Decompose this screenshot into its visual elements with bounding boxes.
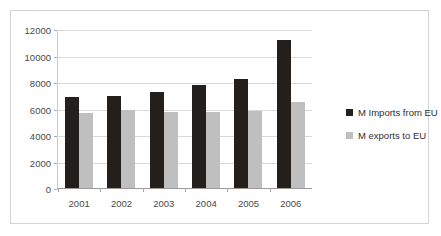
bar-exports-2003[interactable]	[164, 112, 178, 188]
legend-label: M exports to EU	[358, 130, 426, 141]
y-tick-mark	[54, 57, 57, 58]
bar-imports-2005[interactable]	[234, 79, 248, 188]
bar-group: 2004	[185, 30, 227, 188]
y-tick-label: 10000	[25, 51, 51, 62]
y-tick-label: 12000	[25, 25, 51, 36]
chart-container: 120001000080006000400020000 200120022003…	[10, 10, 429, 224]
x-tick-label: 2002	[111, 198, 132, 209]
y-tick-mark	[54, 30, 57, 31]
bar-group: 2006	[270, 30, 312, 188]
y-tick-mark	[54, 110, 57, 111]
chart-legend: M Imports from EUM exports to EU	[346, 107, 438, 153]
legend-swatch-icon	[346, 132, 353, 139]
y-tick-label: 8000	[30, 78, 51, 89]
y-tick-mark	[54, 83, 57, 84]
y-tick-label: 6000	[30, 104, 51, 115]
bar-imports-2002[interactable]	[107, 96, 121, 188]
legend-label: M Imports from EU	[358, 107, 438, 118]
bar-imports-2006[interactable]	[277, 40, 291, 188]
y-tick-label: 0	[46, 184, 51, 195]
plot-area: 120001000080006000400020000 200120022003…	[57, 30, 312, 189]
bar-group: 2003	[143, 30, 185, 188]
x-tick-mark	[143, 188, 144, 192]
x-tick-label: 2005	[238, 198, 259, 209]
bar-exports-2005[interactable]	[248, 111, 262, 188]
x-tick-label: 2004	[196, 198, 217, 209]
bar-group: 2005	[227, 30, 269, 188]
bar-groups: 200120022003200420052006	[58, 30, 312, 188]
bar-imports-2001[interactable]	[65, 97, 79, 188]
legend-item-0[interactable]: M Imports from EU	[346, 107, 438, 118]
x-tick-mark	[270, 188, 271, 192]
x-tick-mark	[100, 188, 101, 192]
legend-swatch-icon	[346, 109, 353, 116]
y-tick-mark	[54, 163, 57, 164]
x-tick-label: 2006	[280, 198, 301, 209]
x-tick-mark	[227, 188, 228, 192]
bar-imports-2003[interactable]	[150, 92, 164, 188]
y-tick-label: 4000	[30, 131, 51, 142]
x-tick-label: 2001	[69, 198, 90, 209]
bar-exports-2001[interactable]	[79, 113, 93, 188]
y-tick-mark	[54, 189, 57, 190]
legend-item-1[interactable]: M exports to EU	[346, 130, 438, 141]
x-tick-mark	[185, 188, 186, 192]
bar-imports-2004[interactable]	[192, 85, 206, 188]
x-tick-label: 2003	[153, 198, 174, 209]
x-tick-mark	[58, 188, 59, 192]
y-tick-mark	[54, 136, 57, 137]
bar-group: 2002	[100, 30, 142, 188]
bar-exports-2004[interactable]	[206, 112, 220, 188]
bar-exports-2002[interactable]	[121, 110, 135, 188]
bar-exports-2006[interactable]	[291, 102, 305, 188]
bar-group: 2001	[58, 30, 100, 188]
y-tick-label: 2000	[30, 157, 51, 168]
